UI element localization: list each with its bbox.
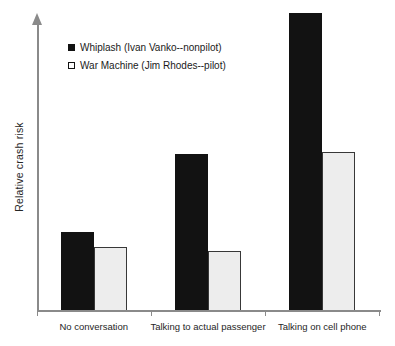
legend-label-whiplash: Whiplash (Ivan Vanko--nonpilot) — [80, 42, 222, 53]
bar-whiplash-1 — [175, 154, 208, 311]
category-label-no-conversation: No conversation — [37, 321, 150, 332]
y-axis-arrow-icon — [32, 13, 42, 25]
category-labels: No conversation Talking to actual passen… — [37, 321, 379, 332]
bar-whiplash-2 — [289, 13, 322, 311]
y-axis-line — [37, 24, 39, 311]
category-label-talking-on-cell-phone: Talking on cell phone — [266, 321, 379, 332]
x-axis-tick — [379, 311, 380, 316]
x-axis-line — [37, 310, 381, 312]
whiplash-swatch-icon — [68, 44, 75, 51]
crash-risk-bar-chart: Relative crash risk Whiplash (Ivan Vanko… — [0, 0, 395, 346]
y-axis-label: Relative crash risk — [13, 60, 27, 274]
legend-label-war-machine: War Machine (Jim Rhodes--pilot) — [80, 60, 226, 71]
bar-war-machine-0 — [94, 247, 127, 311]
category-label-talking-to-passenger: Talking to actual passenger — [150, 321, 265, 332]
legend: Whiplash (Ivan Vanko--nonpilot) War Mach… — [68, 41, 226, 72]
legend-item-whiplash: Whiplash (Ivan Vanko--nonpilot) — [68, 41, 226, 54]
x-axis-tick — [151, 311, 152, 316]
bar-war-machine-1 — [208, 251, 241, 311]
bar-whiplash-0 — [61, 232, 94, 311]
x-axis-tick — [37, 311, 38, 316]
legend-item-war-machine: War Machine (Jim Rhodes--pilot) — [68, 59, 226, 72]
x-axis-tick — [265, 311, 266, 316]
war-machine-swatch-icon — [68, 62, 75, 69]
bar-war-machine-2 — [322, 152, 355, 311]
